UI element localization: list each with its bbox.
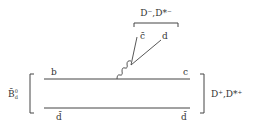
w-boson-line [117, 61, 131, 79]
top-meson-label: D⁻,D*⁻ [140, 8, 172, 18]
feynman-diagram: D⁻,D*⁻ c̄ d b c d̄ d̄ B̄0d D⁺,D*⁺ [0, 0, 255, 127]
left-meson-bracket [30, 74, 34, 113]
c-quark-label: c [183, 67, 188, 77]
dbar-left-label: d̄ [56, 111, 63, 122]
right-meson-label: D⁺,D*⁺ [211, 89, 243, 99]
b-meson-label: B̄0d [8, 88, 19, 100]
d-label: d [162, 31, 168, 41]
cbar-label: c̄ [140, 31, 145, 41]
top-meson-bracket [134, 23, 178, 27]
dbar-right-label: d̄ [181, 111, 188, 122]
right-meson-bracket [200, 74, 204, 113]
b-quark-label: b [51, 67, 57, 77]
